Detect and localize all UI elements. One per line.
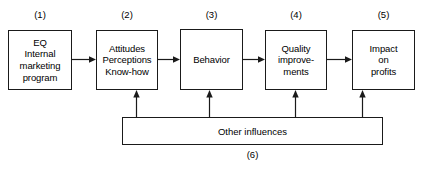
box-eq-internal-marketing-program: EQ Internal marketing program xyxy=(8,30,72,90)
flow-diagram: (1) (2) (3) (4) (5) EQ Internal marketin… xyxy=(0,0,423,170)
arrow-right-box3-to-box4 xyxy=(243,55,265,64)
arrow-up-to-box5 xyxy=(358,90,367,118)
box-5-line-1: Impact xyxy=(370,43,398,55)
step-number-2: (2) xyxy=(96,9,158,20)
box-2-line-1: Attitudes xyxy=(109,43,145,55)
arrow-up-to-box2 xyxy=(132,90,141,118)
arrow-right-box4-to-box5 xyxy=(327,55,352,64)
box-impact-on-profits: Impact on profits xyxy=(352,30,415,90)
box-4-line-3: ments xyxy=(283,66,308,78)
step-number-3: (3) xyxy=(180,9,243,20)
step-number-1: (1) xyxy=(8,9,72,20)
step-number-4: (4) xyxy=(265,9,327,20)
box-attitudes-perceptions-knowhow: Attitudes Perceptions Know-how xyxy=(96,30,158,90)
step-number-5: (5) xyxy=(352,9,415,20)
box-1-line-2: Internal xyxy=(25,48,56,60)
box-3-line-1: Behavior xyxy=(193,54,230,66)
arrow-right-box2-to-box3 xyxy=(158,55,180,64)
arrow-up-to-box4 xyxy=(291,90,300,118)
box-4-line-2: improve- xyxy=(278,54,314,66)
box-2-line-2: Perceptions xyxy=(102,54,151,66)
box-4-line-1: Quality xyxy=(282,43,311,55)
box-1-line-4: program xyxy=(23,72,58,84)
box-2-line-3: Know-how xyxy=(105,66,149,78)
bar-other-influences-label: Other influences xyxy=(218,126,287,137)
step-number-6: (6) xyxy=(122,149,383,160)
box-behavior: Behavior xyxy=(180,29,243,90)
box-1-line-3: marketing xyxy=(20,60,61,72)
box-5-line-3: profits xyxy=(371,66,396,78)
box-quality-improvements: Quality improve- ments xyxy=(265,30,327,90)
arrow-up-to-box3 xyxy=(205,90,214,118)
bar-other-influences: Other influences xyxy=(122,117,383,145)
arrow-right-box1-to-box2 xyxy=(72,55,96,64)
box-1-line-1: EQ xyxy=(33,37,47,49)
box-5-line-2: on xyxy=(378,54,388,66)
